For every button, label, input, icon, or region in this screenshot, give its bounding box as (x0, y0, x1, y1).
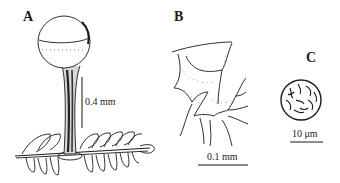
figure: A B C 0.4 mm 0.1 mm 10 μm (0, 0, 340, 183)
stalk (62, 66, 80, 154)
leaf-substrate (15, 132, 154, 175)
panel-label-a: A (23, 10, 33, 24)
panel-c-drawing (281, 80, 321, 120)
panel-b-drawing (172, 42, 248, 146)
scale-label-b: 0.1 mm (207, 152, 238, 162)
panel-label-b: B (174, 10, 183, 24)
figure-drawings (0, 0, 340, 183)
panel-label-c: C (306, 51, 316, 65)
scale-label-c: 10 μm (292, 129, 318, 139)
scale-label-a: 0.4 mm (85, 97, 116, 107)
